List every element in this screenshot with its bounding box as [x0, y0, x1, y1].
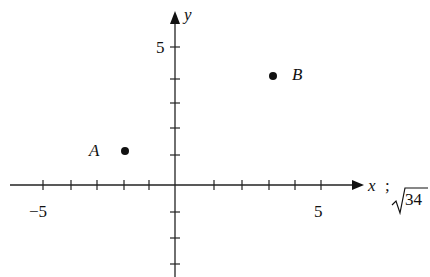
coordinate-plane	[0, 0, 430, 277]
x-tick-label-5: 5	[314, 203, 323, 220]
point-b	[269, 72, 277, 80]
x-tick-label-neg5: −5	[29, 203, 47, 220]
point-a	[121, 147, 129, 155]
x-axis-label: x	[368, 177, 376, 194]
point-a-label: A	[89, 142, 99, 159]
y-axis-arrow-icon	[170, 11, 180, 24]
answer-value: 34	[405, 191, 422, 208]
y-axis-label: y	[184, 6, 192, 23]
point-b-label: B	[292, 66, 302, 83]
answer-separator: ;	[385, 177, 390, 194]
x-axis-arrow-icon	[352, 180, 364, 190]
y-tick-label-5: 5	[156, 39, 165, 56]
